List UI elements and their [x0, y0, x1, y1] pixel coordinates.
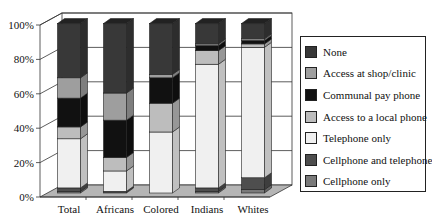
x-category-label: Whites: [237, 203, 268, 215]
y-tick-label: 0%: [19, 191, 34, 203]
legend-label: None: [323, 46, 347, 58]
bar-segment: [196, 51, 219, 65]
bar-segment: [242, 190, 265, 193]
bar-segment: [58, 127, 81, 139]
bar-whites: [242, 19, 272, 193]
bar-segment: [196, 24, 219, 44]
y-tick-label: 80%: [14, 53, 34, 65]
bar-segment: [58, 78, 81, 98]
legend-label: Communal pay phone: [323, 89, 420, 101]
y-tick-label: 40%: [14, 122, 34, 134]
x-axis: TotalAfricansColoredIndiansWhites: [40, 197, 270, 215]
bar-segment: [104, 157, 127, 171]
legend-swatch: [305, 89, 317, 101]
bar-segment: [58, 139, 81, 188]
bar-segment: [150, 132, 173, 193]
bar-segment: [104, 120, 127, 157]
bar-segment: [150, 103, 173, 132]
legend-label: Access to a local phone: [323, 111, 427, 123]
legend-label: Telephone only: [323, 132, 391, 144]
bar-segment: [242, 178, 265, 190]
bar-indians: [196, 19, 226, 193]
bar-segment: [242, 47, 265, 177]
legend-item-local-phone: Access to a local phone: [305, 106, 425, 128]
bar-segment: [150, 78, 173, 103]
x-category-label: Colored: [143, 203, 179, 215]
legend-swatch: [305, 46, 317, 58]
bar-segment: [104, 171, 127, 191]
legend-swatch: [305, 154, 317, 166]
y-tick-label: 60%: [14, 88, 34, 100]
bar-segment: [104, 93, 127, 120]
x-category-label: Indians: [191, 203, 223, 215]
legend-swatch: [305, 175, 317, 187]
legend-item-shop-clinic: Access at shop/clinic: [305, 63, 425, 85]
x-category-label: Africans: [96, 203, 134, 215]
bar-segment: [196, 188, 219, 191]
legend-item-cellphone-only: Cellphone only: [305, 171, 425, 193]
legend-label: Cellphone only: [323, 175, 391, 187]
legend-item-communal-pay-phone: Communal pay phone: [305, 84, 425, 106]
bar-segment: [58, 188, 81, 191]
bar-segment: [196, 64, 219, 188]
bar-segment: [242, 24, 265, 39]
legend-item-none: None: [305, 41, 425, 63]
legend-item-cellphone-and-telephone: Cellphone and telephone: [305, 149, 425, 171]
legend-swatch: [305, 111, 317, 123]
y-tick-label: 100%: [8, 19, 34, 31]
bar-total: [58, 19, 88, 193]
bar-segment: [242, 41, 265, 44]
legend-item-telephone-only: Telephone only: [305, 127, 425, 149]
bar-segment: [104, 24, 127, 93]
bar-segment: [242, 44, 265, 47]
legend-label: Access at shop/clinic: [323, 67, 416, 79]
legend-label: Cellphone and telephone: [323, 154, 432, 166]
legend: None Access at shop/clinic Communal pay …: [300, 36, 426, 192]
bar-segment: [58, 98, 81, 127]
bar-segment: [58, 24, 81, 78]
bar-africans: [104, 19, 134, 193]
bar-colored: [150, 19, 180, 193]
y-tick-label: 20%: [14, 157, 34, 169]
legend-swatch: [305, 67, 317, 79]
bar-segment: [150, 74, 173, 77]
x-category-label: Total: [58, 203, 80, 215]
legend-swatch: [305, 132, 317, 144]
bar-segment: [150, 24, 173, 75]
bar-segment: [196, 46, 219, 51]
